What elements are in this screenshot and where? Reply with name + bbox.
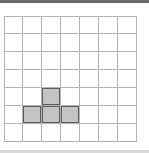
- grid-cell: [23, 70, 42, 88]
- grid-cell: [4, 16, 23, 34]
- grid-cell: [99, 16, 118, 34]
- grid-cell: [4, 88, 23, 106]
- bottom-border: [0, 150, 149, 153]
- grid-cell: [61, 52, 80, 70]
- grid-cell: [23, 52, 42, 70]
- grid-cell: [99, 34, 118, 52]
- grid-cell: [42, 70, 61, 88]
- grid-cell: [61, 88, 80, 106]
- grid-cell: [42, 124, 61, 142]
- grid-cell: [118, 34, 137, 52]
- grid-cell: [80, 52, 99, 70]
- grid-cell: [4, 34, 23, 52]
- grid-cell: [118, 124, 137, 142]
- grid-cell: [23, 16, 42, 34]
- grid-cell: [23, 88, 42, 106]
- grid-cell: [61, 124, 80, 142]
- grid-cell: [80, 106, 99, 124]
- grid-cell: [23, 34, 42, 52]
- grid-cell: [61, 34, 80, 52]
- shaded-cell: [42, 106, 61, 124]
- shaded-cell: [42, 88, 61, 106]
- grid-cell: [118, 52, 137, 70]
- grid-cell: [99, 106, 118, 124]
- grid-cell: [80, 16, 99, 34]
- square-grid: [4, 16, 137, 142]
- grid-cell: [118, 106, 137, 124]
- grid-cell: [80, 88, 99, 106]
- grid-cell: [42, 16, 61, 34]
- grid-cell: [80, 34, 99, 52]
- grid-cell: [80, 124, 99, 142]
- grid-cell: [61, 70, 80, 88]
- grid-cell: [99, 124, 118, 142]
- grid-cell: [61, 16, 80, 34]
- grid-cell: [99, 52, 118, 70]
- grid-cell: [99, 88, 118, 106]
- grid-cell: [4, 106, 23, 124]
- top-border: [0, 0, 149, 3]
- grid-cell: [118, 88, 137, 106]
- grid-cell: [42, 34, 61, 52]
- grid-cell: [42, 52, 61, 70]
- grid-cell: [4, 70, 23, 88]
- shaded-cell: [23, 106, 42, 124]
- grid-cell: [99, 70, 118, 88]
- shaded-cell: [61, 106, 80, 124]
- grid-cell: [80, 70, 99, 88]
- grid-cell: [118, 70, 137, 88]
- grid-cell: [4, 52, 23, 70]
- grid-cell: [23, 124, 42, 142]
- grid-cell: [118, 16, 137, 34]
- grid-cell: [4, 124, 23, 142]
